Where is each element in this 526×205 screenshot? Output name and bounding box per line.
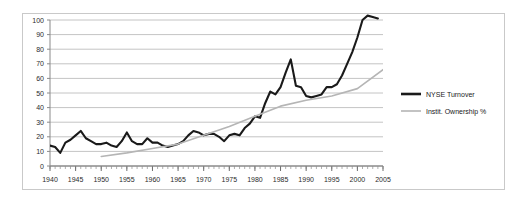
y-tick-label: 100 <box>32 17 44 24</box>
y-tick-label: 10 <box>36 148 44 155</box>
data-series-layer <box>50 16 383 157</box>
y-tick-label: 80 <box>36 46 44 53</box>
x-tick-label: 1975 <box>222 176 238 183</box>
x-tick-label: 1995 <box>324 176 340 183</box>
x-tick-label: 1990 <box>298 176 314 183</box>
x-tick-label: 1945 <box>68 176 84 183</box>
x-tick-label: 1980 <box>247 176 263 183</box>
x-axis-major-ticks <box>50 166 383 171</box>
x-tick-label: 1970 <box>196 176 212 183</box>
x-tick-label: 1965 <box>170 176 186 183</box>
line-chart-plot: 0102030405060708090100 19401945195019551… <box>23 14 504 189</box>
legend-label: NYSE Turnover <box>426 91 475 98</box>
y-tick-label: 70 <box>36 60 44 67</box>
x-tick-label: 2000 <box>350 176 366 183</box>
x-tick-label: 1960 <box>145 176 161 183</box>
x-tick-label: 1940 <box>42 176 58 183</box>
y-tick-label: 40 <box>36 104 44 111</box>
y-tick-label: 60 <box>36 75 44 82</box>
chart-legend: NYSE TurnoverInstit. Ownership % <box>401 91 486 116</box>
x-tick-label: 1985 <box>273 176 289 183</box>
y-tick-label: 20 <box>36 133 44 140</box>
legend-label: Instit. Ownership % <box>426 108 486 116</box>
y-tick-label: 30 <box>36 119 44 126</box>
chart-figure: 0102030405060708090100 19401945195019551… <box>0 0 526 205</box>
x-axis-tick-labels: 1940194519501955196019651970197519801985… <box>42 176 391 183</box>
x-tick-label: 1955 <box>119 176 135 183</box>
x-tick-label: 1950 <box>93 176 109 183</box>
y-tick-label: 50 <box>36 90 44 97</box>
y-tick-label: 90 <box>36 31 44 38</box>
x-tick-label: 2005 <box>375 176 391 183</box>
chart-frame: 0102030405060708090100 19401945195019551… <box>22 13 505 190</box>
y-axis-tick-labels: 0102030405060708090100 <box>32 17 44 170</box>
y-tick-label: 0 <box>40 163 44 170</box>
